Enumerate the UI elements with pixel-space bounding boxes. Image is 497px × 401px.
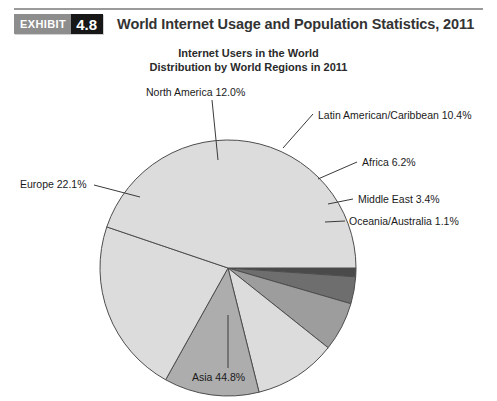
pie-label-north-america: North America 12.0% [146, 86, 245, 98]
exhibit-badge: EXHIBIT 4.8 [14, 14, 103, 34]
pie-label-europe: Europe 22.1% [20, 178, 87, 190]
leader-line-africa [318, 162, 357, 179]
exhibit-header: EXHIBIT 4.8 World Internet Usage and Pop… [14, 13, 474, 35]
page-title: World Internet Usage and Population Stat… [117, 16, 474, 32]
leader-line-latin-america [283, 114, 313, 148]
pie-chart-figure: Internet Users in the World Distribution… [0, 38, 497, 401]
pie-label-latin-america: Latin American/Caribbean 10.4% [318, 109, 472, 121]
pie-label-oceania: Oceania/Australia 1.1% [349, 215, 459, 227]
pie-label-asia: Asia 44.8% [192, 371, 245, 383]
pie-label-africa: Africa 6.2% [362, 156, 416, 168]
header-divider [14, 8, 483, 10]
exhibit-badge-word: EXHIBIT [14, 14, 71, 34]
pie-label-middle-east: Middle East 3.4% [358, 193, 440, 205]
exhibit-badge-number: 4.8 [71, 14, 103, 34]
